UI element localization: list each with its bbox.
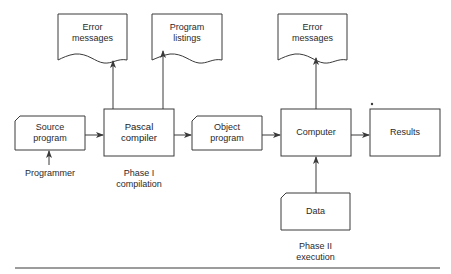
error-messages-2-line1: Error: [278, 22, 347, 33]
source-program-line1: Source: [15, 122, 85, 133]
phase2-line2: execution: [281, 252, 350, 263]
results-label: Results: [370, 127, 440, 138]
phase2-line1: Phase II: [281, 241, 350, 252]
phase1-line1: Phase I: [104, 168, 174, 179]
object-program-line2: program: [192, 133, 262, 144]
phase2-label: Phase II execution: [281, 241, 350, 263]
phase1-line2: compilation: [104, 179, 174, 190]
program-listings-label: Program listings: [152, 22, 222, 44]
programmer-label: Programmer: [15, 168, 85, 179]
pascal-compiler-label: Pascal compiler: [104, 121, 174, 143]
program-listings-line2: listings: [152, 33, 222, 44]
program-listings-line1: Program: [152, 22, 222, 33]
data-label: Data: [281, 206, 350, 217]
error-messages-1-line2: messages: [58, 33, 127, 44]
source-program-line2: program: [15, 133, 85, 144]
object-program-label: Object program: [192, 122, 262, 144]
source-program-label: Source program: [15, 122, 85, 144]
pascal-compiler-line2: compiler: [104, 132, 174, 143]
error-messages-1-label: Error messages: [58, 22, 127, 44]
object-program-line1: Object: [192, 122, 262, 133]
pascal-compiler-line1: Pascal: [104, 121, 174, 132]
phase1-label: Phase I compilation: [104, 168, 174, 190]
computer-label: Computer: [281, 127, 351, 138]
error-messages-1-line1: Error: [58, 22, 127, 33]
error-messages-2-label: Error messages: [278, 22, 347, 44]
error-messages-2-line2: messages: [278, 33, 347, 44]
dot-mark: [371, 103, 373, 105]
